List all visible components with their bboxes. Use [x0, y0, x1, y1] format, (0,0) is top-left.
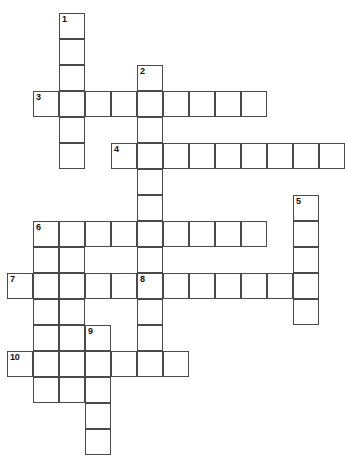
crossword-cell[interactable] — [59, 221, 85, 247]
crossword-cell[interactable] — [33, 351, 59, 377]
cell-number-label: 5 — [296, 196, 301, 207]
crossword-cell[interactable] — [215, 143, 241, 169]
cell-number-label: 9 — [88, 326, 93, 337]
crossword-cell[interactable] — [241, 91, 267, 117]
crossword-cell[interactable] — [59, 143, 85, 169]
crossword-cell[interactable] — [215, 273, 241, 299]
cell-number-label: 6 — [36, 222, 41, 233]
crossword-cell[interactable] — [59, 247, 85, 273]
crossword-cell-numbered[interactable]: 9 — [85, 325, 111, 351]
crossword-cell[interactable] — [85, 91, 111, 117]
crossword-cell-numbered[interactable]: 2 — [137, 65, 163, 91]
crossword-cell[interactable] — [293, 221, 319, 247]
crossword-cell[interactable] — [163, 351, 189, 377]
crossword-cell[interactable] — [137, 351, 163, 377]
crossword-cell[interactable] — [137, 299, 163, 325]
crossword-cell[interactable] — [137, 221, 163, 247]
crossword-cell[interactable] — [59, 91, 85, 117]
crossword-cell[interactable] — [33, 377, 59, 403]
crossword-cell-numbered[interactable]: 6 — [33, 221, 59, 247]
crossword-cell[interactable] — [59, 325, 85, 351]
crossword-cell[interactable] — [137, 325, 163, 351]
crossword-cell[interactable] — [111, 221, 137, 247]
crossword-cell[interactable] — [215, 221, 241, 247]
crossword-cell[interactable] — [293, 273, 319, 299]
crossword-cell-numbered[interactable]: 4 — [111, 143, 137, 169]
crossword-cell[interactable] — [111, 91, 137, 117]
crossword-cell-numbered[interactable]: 5 — [293, 195, 319, 221]
crossword-cell[interactable] — [137, 247, 163, 273]
cell-number-label: 2 — [140, 66, 145, 77]
crossword-cell-numbered[interactable]: 7 — [7, 273, 33, 299]
crossword-cell[interactable] — [163, 221, 189, 247]
crossword-cell[interactable] — [59, 65, 85, 91]
crossword-cell[interactable] — [59, 273, 85, 299]
crossword-cell-numbered[interactable]: 3 — [33, 91, 59, 117]
crossword-cell[interactable] — [33, 273, 59, 299]
crossword-cell-numbered[interactable]: 10 — [7, 351, 33, 377]
crossword-cell[interactable] — [241, 221, 267, 247]
crossword-cell[interactable] — [189, 143, 215, 169]
crossword-cell[interactable] — [85, 351, 111, 377]
crossword-cell[interactable] — [137, 143, 163, 169]
crossword-cell[interactable] — [33, 325, 59, 351]
crossword-cell[interactable] — [293, 247, 319, 273]
crossword-cell[interactable] — [59, 39, 85, 65]
crossword-cell[interactable] — [137, 195, 163, 221]
crossword-cell[interactable] — [59, 351, 85, 377]
crossword-cell[interactable] — [85, 377, 111, 403]
crossword-cell[interactable] — [267, 143, 293, 169]
cell-number-label: 7 — [10, 274, 15, 285]
crossword-cell[interactable] — [85, 273, 111, 299]
crossword-cell[interactable] — [189, 273, 215, 299]
crossword-cell[interactable] — [293, 143, 319, 169]
crossword-cell[interactable] — [189, 91, 215, 117]
crossword-cell[interactable] — [59, 117, 85, 143]
crossword-cell[interactable] — [163, 143, 189, 169]
crossword-cell[interactable] — [163, 91, 189, 117]
crossword-cell[interactable] — [111, 351, 137, 377]
crossword-cell[interactable] — [319, 143, 345, 169]
crossword-cell[interactable] — [59, 377, 85, 403]
crossword-cell[interactable] — [189, 221, 215, 247]
crossword-cell[interactable] — [85, 221, 111, 247]
crossword-cell[interactable] — [215, 91, 241, 117]
cell-number-label: 10 — [10, 352, 19, 363]
crossword-cell[interactable] — [241, 273, 267, 299]
crossword-cell[interactable] — [33, 247, 59, 273]
crossword-cell[interactable] — [293, 299, 319, 325]
crossword-cell[interactable] — [85, 403, 111, 429]
cell-number-label: 8 — [140, 274, 145, 285]
cell-number-label: 1 — [62, 14, 67, 25]
crossword-cell[interactable] — [59, 299, 85, 325]
crossword-cell[interactable] — [137, 169, 163, 195]
crossword-cell-numbered[interactable]: 1 — [59, 13, 85, 39]
cell-number-label: 4 — [114, 144, 119, 155]
crossword-cell[interactable] — [137, 91, 163, 117]
crossword-cell[interactable] — [137, 117, 163, 143]
crossword-cell[interactable] — [111, 273, 137, 299]
cell-number-label: 3 — [36, 92, 41, 103]
crossword-cell[interactable] — [163, 273, 189, 299]
crossword-cell-numbered[interactable]: 8 — [137, 273, 163, 299]
crossword-cell[interactable] — [33, 299, 59, 325]
crossword-cell[interactable] — [241, 143, 267, 169]
crossword-cell[interactable] — [267, 273, 293, 299]
crossword-cell[interactable] — [85, 429, 111, 455]
